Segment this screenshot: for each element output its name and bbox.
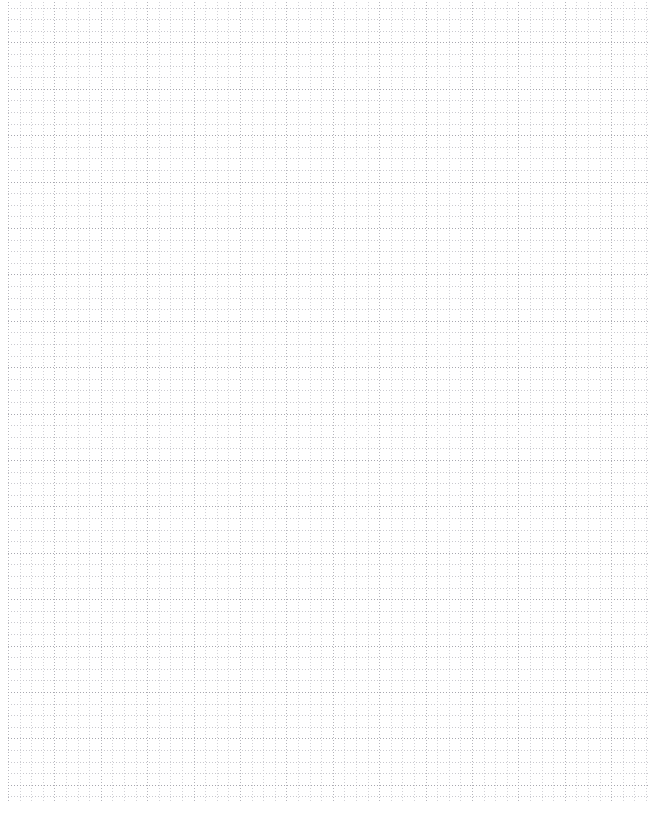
grid-sheet [8,0,650,801]
grid-paper-page [0,0,660,813]
major-grid-lines [8,0,650,801]
minor-grid-lines [8,0,650,801]
